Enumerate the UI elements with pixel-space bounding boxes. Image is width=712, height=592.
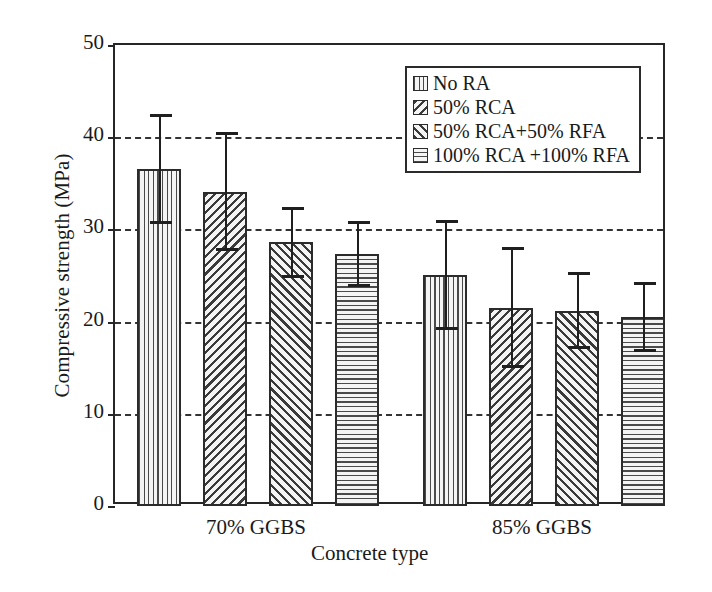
- error-bar-cap-bottom: [502, 365, 524, 368]
- error-bar-1-2: [225, 134, 227, 250]
- legend-item-label: 50% RCA+50% RFA: [433, 121, 606, 141]
- error-bar-cap-bottom: [568, 346, 590, 349]
- bar-chart: Compressive strength (MPa) 50403020100 7…: [0, 0, 712, 592]
- legend-item-4: 100% RCA +100% RFA: [413, 143, 630, 167]
- error-bar-2-2: [511, 249, 513, 367]
- y-tick-mark-10: [108, 414, 115, 416]
- y-tick-mark-0: [108, 506, 115, 508]
- error-bar-2-4: [643, 284, 645, 350]
- legend-item-label: No RA: [433, 73, 490, 93]
- error-bar-cap-bottom: [282, 275, 304, 278]
- x-group-label-2: 85% GGBS: [462, 515, 622, 540]
- y-tick-label-50: 50: [58, 32, 104, 53]
- legend-item-2: 50% RCA: [413, 95, 630, 119]
- forward-diagonal-hatch-icon: [413, 124, 428, 139]
- y-tick-mark-30: [108, 229, 115, 231]
- error-bar-cap-top: [568, 272, 590, 275]
- horizontal-hatch-icon: [413, 148, 428, 163]
- x-axis-title: Concrete type: [311, 541, 428, 566]
- chart-legend: No RA50% RCA50% RCA+50% RFA100% RCA +100…: [405, 66, 641, 173]
- legend-item-label: 100% RCA +100% RFA: [433, 145, 630, 165]
- legend-item-3: 50% RCA+50% RFA: [413, 119, 630, 143]
- error-bar-2-3: [577, 274, 579, 348]
- y-tick-label-20: 20: [58, 309, 104, 330]
- y-tick-label-40: 40: [58, 124, 104, 145]
- y-tick-mark-40: [108, 137, 115, 139]
- legend-item-label: 50% RCA: [433, 97, 516, 117]
- backward-diagonal-hatch-icon: [413, 100, 428, 115]
- y-axis-tick-labels: 50403020100: [52, 0, 104, 592]
- y-tick-label-0: 0: [58, 493, 104, 514]
- error-bar-1-4: [357, 223, 359, 286]
- y-tick-label-10: 10: [58, 401, 104, 422]
- bar-1-4: [335, 254, 379, 506]
- error-bar-cap-top: [150, 114, 172, 117]
- vertical-hatch-icon: [413, 76, 428, 91]
- error-bar-cap-bottom: [348, 284, 370, 287]
- error-bar-cap-bottom: [150, 221, 172, 224]
- error-bar-cap-bottom: [634, 349, 656, 352]
- legend-item-1: No RA: [413, 71, 630, 95]
- error-bar-cap-bottom: [436, 327, 458, 330]
- error-bar-cap-bottom: [216, 248, 238, 251]
- error-bar-cap-top: [634, 282, 656, 285]
- bar-1-3: [269, 242, 313, 506]
- y-tick-label-30: 30: [58, 216, 104, 237]
- error-bar-cap-top: [216, 132, 238, 135]
- error-bar-1-1: [159, 115, 161, 222]
- error-bar-cap-top: [502, 247, 524, 250]
- error-bar-cap-top: [282, 207, 304, 210]
- error-bar-2-1: [445, 221, 447, 328]
- gridline-30: [115, 229, 663, 231]
- y-tick-mark-50: [108, 45, 115, 47]
- error-bar-cap-top: [436, 220, 458, 223]
- error-bar-1-3: [291, 208, 293, 276]
- x-group-label-1: 70% GGBS: [176, 515, 336, 540]
- y-tick-mark-20: [108, 322, 115, 324]
- error-bar-cap-top: [348, 221, 370, 224]
